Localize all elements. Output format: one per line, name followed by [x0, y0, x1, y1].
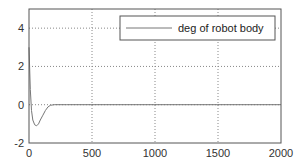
- y-axis-ticks: -2024: [14, 22, 24, 149]
- line-chart: 0500100015002000 -2024 deg of robot body: [0, 0, 303, 168]
- x-tick-label: 1000: [143, 147, 167, 159]
- x-axis-ticks: 0500100015002000: [26, 147, 293, 159]
- x-tick-label: 500: [83, 147, 101, 159]
- x-tick-label: 0: [26, 147, 32, 159]
- y-tick-label: 4: [18, 22, 24, 34]
- legend: deg of robot body: [120, 16, 275, 40]
- legend-label: deg of robot body: [178, 22, 264, 34]
- y-tick-label: 0: [18, 99, 24, 111]
- y-tick-label: -2: [14, 137, 24, 149]
- x-tick-label: 1500: [206, 147, 230, 159]
- x-tick-label: 2000: [269, 147, 293, 159]
- y-tick-label: 2: [18, 60, 24, 72]
